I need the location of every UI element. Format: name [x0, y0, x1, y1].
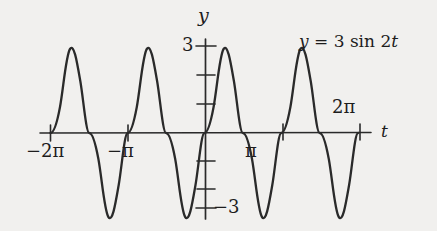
equation-expression: 3 sin 2 [334, 31, 392, 51]
t-axis-label: t [381, 123, 388, 140]
equation-lhs: y [299, 31, 309, 51]
t-tick-label-negative-2pi: −2π [26, 142, 64, 160]
t-tick-label-negative-pi: −π [107, 142, 134, 160]
figure-canvas: y t 3 −3 −2π −π π 2π y = 3 sin 2t [0, 0, 437, 231]
t-tick-label-pi: π [245, 142, 257, 160]
y-tick-label-negative-3: −3 [213, 198, 240, 216]
y-axis-label: y [198, 6, 209, 25]
equation-equals-sign: = [314, 31, 328, 51]
y-tick-label-3: 3 [182, 36, 193, 54]
curve-equation-annotation: y = 3 sin 2t [299, 33, 398, 50]
t-tick-label-2pi: 2π [332, 98, 355, 116]
equation-variable: t [391, 31, 398, 51]
